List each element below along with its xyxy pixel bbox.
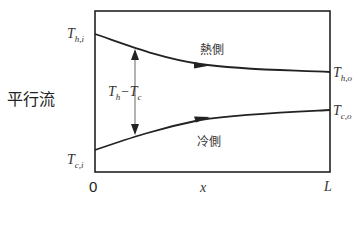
hot-outlet-label: Th,o [333, 65, 352, 83]
hot-inlet-label: Th,i [67, 26, 84, 44]
hot-flow-arrow-icon [194, 62, 210, 69]
cold-outlet-label: Tc,o [333, 103, 352, 121]
cold-side-label: 冷側 [197, 132, 221, 149]
x-axis-label: x [200, 180, 206, 196]
diagram-title: 平行流 [7, 86, 55, 110]
x-axis-origin: 0 [89, 178, 97, 195]
temperature-difference-label: Th−Tc [108, 84, 142, 102]
x-axis-end-label: L [324, 179, 332, 195]
hot-side-label: 熱側 [200, 40, 224, 57]
arrow-up-icon [131, 49, 139, 60]
cold-inlet-label: Tc,i [67, 152, 84, 170]
arrow-down-icon [131, 124, 139, 135]
